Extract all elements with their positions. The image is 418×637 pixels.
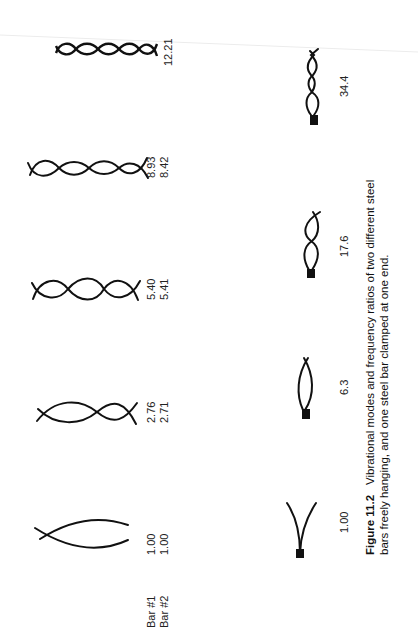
free-bar-mode-2-drawing — [37, 402, 137, 424]
free-bar-mode-1-drawing — [35, 520, 128, 548]
free-mode-3-bar2-ratio: 5.41 — [158, 279, 170, 300]
clamp-block-icon — [302, 409, 310, 419]
free-mode-4-bar2-ratio: 8.42 — [158, 157, 170, 178]
clamped-mode-3-ratio: 17.6 — [338, 236, 350, 257]
free-bar-mode-4-drawing — [28, 158, 148, 178]
free-mode-1-bar2-ratio: 1.00 — [158, 534, 170, 555]
clamped-bar-mode-2-drawing — [299, 358, 312, 419]
caption-line-2: bars freely hanging, and one steel bar c… — [378, 255, 390, 555]
clamped-mode-2-ratio: 6.3 — [338, 380, 350, 395]
free-mode-2-bar1-ratio: 2.76 — [145, 402, 157, 423]
free-mode-1-bar1-ratio: 1.00 — [145, 534, 157, 555]
clamp-block-icon — [310, 115, 318, 125]
figure-canvas: 1.00 1.00 2.76 2.71 5.40 5.41 8.93 8.42 … — [0, 0, 418, 637]
row-label-bar-1: Bar #1 — [145, 596, 157, 628]
clamped-bar-mode-4-drawing — [307, 49, 319, 125]
figure-number: Figure 11.2 — [364, 495, 376, 555]
clamped-mode-4-ratio: 34.4 — [338, 76, 350, 97]
caption-line-1: Figure 11.2Vibrational modes and frequen… — [364, 180, 376, 555]
clamp-block-icon — [296, 549, 304, 558]
free-mode-2-bar2-ratio: 2.71 — [158, 402, 170, 423]
row-label-bar-2: Bar #2 — [158, 596, 170, 628]
caption-text-1: Vibrational modes and frequency ratios o… — [364, 180, 376, 485]
free-mode-3-bar1-ratio: 5.40 — [145, 279, 157, 300]
free-bar-mode-3-drawing — [32, 279, 140, 301]
clamped-mode-1-ratio: 1.00 — [338, 512, 350, 533]
clamp-block-icon — [307, 269, 315, 278]
clamped-bar-group: 1.00 6.3 17.6 34.4 — [287, 49, 350, 558]
free-mode-4-bar1-ratio: 8.93 — [145, 157, 157, 178]
figure-caption: Figure 11.2Vibrational modes and frequen… — [364, 180, 390, 555]
free-bar-mode-5-drawing — [56, 44, 157, 56]
free-bars-group: 1.00 1.00 2.76 2.71 5.40 5.41 8.93 8.42 … — [28, 38, 174, 628]
clamped-bar-mode-3-drawing — [304, 212, 320, 278]
free-mode-5-bar1-ratio: 12.21 — [162, 38, 174, 66]
clamped-bar-mode-1-drawing — [287, 503, 316, 558]
